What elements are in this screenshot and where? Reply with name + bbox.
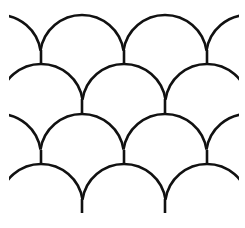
scallop-pattern-canvas	[0, 0, 245, 228]
background	[0, 0, 245, 228]
